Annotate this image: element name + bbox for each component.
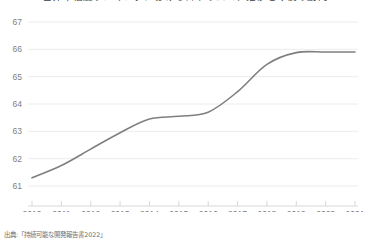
x-tick-label: 2019 (287, 209, 306, 212)
plot-area: 61626364656667 2010201120122013201420152… (0, 12, 370, 212)
x-tick-label: 2020 (316, 209, 335, 212)
x-tick-label: 2016 (199, 209, 218, 212)
x-tick-label: 2013 (111, 209, 130, 212)
x-tick-label: 2021 (346, 209, 365, 212)
x-tick-label: 2014 (140, 209, 159, 212)
x-tick-label: 2017 (228, 209, 247, 212)
source-note: 出典:「持続可能な開発報告書2022」 (4, 231, 106, 240)
y-tick-label: 64 (13, 99, 23, 109)
x-axis-tick-labels: 2010201120122013201420152016201720182019… (23, 209, 365, 212)
x-tick-label: 2015 (169, 209, 188, 212)
x-axis-group (28, 201, 358, 206)
chart-figure: 世界幸福度ランキングにおける日本のスコア推移と今後の動向 61626364656… (0, 0, 370, 244)
y-tick-label: 62 (13, 154, 23, 164)
y-tick-label: 63 (13, 126, 23, 136)
y-tick-label: 66 (13, 44, 23, 54)
x-tick-label: 2018 (257, 209, 276, 212)
x-tick-label: 2012 (81, 209, 100, 212)
x-tick-label: 2011 (52, 209, 71, 212)
y-tick-label: 67 (13, 17, 23, 27)
y-tick-label: 65 (13, 72, 23, 82)
y-tick-label: 61 (13, 181, 23, 191)
gridlines-group (28, 22, 358, 186)
y-axis-tick-labels: 61626364656667 (13, 17, 23, 191)
line-chart-svg: 61626364656667 2010201120122013201420152… (0, 12, 370, 212)
x-tick-label: 2010 (23, 209, 42, 212)
chart-title: 世界幸福度ランキングにおける日本のスコア推移と今後の動向 (0, 0, 370, 2)
